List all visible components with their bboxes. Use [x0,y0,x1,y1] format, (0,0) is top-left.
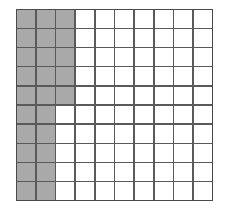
grid-cell-r7-c1 [17,125,35,143]
grid-cell-r3-c4 [76,48,94,66]
grid-cell-r1-c4 [76,10,94,28]
grid-cell-r10-c6 [115,182,133,200]
grid-cell-r2-c10 [194,29,212,47]
grid-cell-r4-c10 [194,67,212,85]
grid-cell-r3-c3 [56,48,74,66]
grid-cell-r2-c7 [135,29,153,47]
grid-cell-r10-c8 [155,182,173,200]
grid-cell-r5-c8 [155,87,173,105]
grid-cell-r2-c5 [96,29,114,47]
grid-cell-r3-c10 [194,48,212,66]
grid-cell-r5-c10 [194,87,212,105]
grid-cell-r1-c6 [115,10,133,28]
grid-cell-r8-c4 [76,144,94,162]
grid-cell-r1-c9 [174,10,192,28]
grid-cell-r9-c8 [155,163,173,181]
grid-cell-r5-c7 [135,87,153,105]
grid-cell-r2-c2 [37,29,55,47]
grid-cell-r4-c4 [76,67,94,85]
grid-cell-r8-c5 [96,144,114,162]
grid-cell-r8-c1 [17,144,35,162]
grid-cell-r7-c7 [135,125,153,143]
grid-cell-r8-c10 [194,144,212,162]
grid-cell-r6-c8 [155,106,173,124]
grid-cell-r4-c2 [37,67,55,85]
grid-cell-r1-c3 [56,10,74,28]
grid-cell-r9-c10 [194,163,212,181]
figure-root [0,0,226,210]
grid-cell-r5-c5 [96,87,114,105]
grid-cell-r3-c5 [96,48,114,66]
grid-cell-r4-c6 [115,67,133,85]
grid-cell-r9-c3 [56,163,74,181]
grid-cell-r10-c1 [17,182,35,200]
grid-cell-r7-c4 [76,125,94,143]
grid-cell-r1-c2 [37,10,55,28]
grid-cell-r1-c10 [194,10,212,28]
grid-cell-r9-c9 [174,163,192,181]
grid-cell-r2-c4 [76,29,94,47]
grid-cell-r9-c5 [96,163,114,181]
grid-cell-r7-c3 [56,125,74,143]
grid-cell-r10-c4 [76,182,94,200]
grid-cell-r9-c1 [17,163,35,181]
grid-cell-r5-c2 [37,87,55,105]
grid-cell-r3-c6 [115,48,133,66]
grid-cell-r5-c1 [17,87,35,105]
grid-cell-r6-c4 [76,106,94,124]
grid-cell-r8-c2 [37,144,55,162]
grid-cell-r5-c4 [76,87,94,105]
grid-cell-r8-c9 [174,144,192,162]
grid-cell-r7-c2 [37,125,55,143]
grid-cell-r5-c3 [56,87,74,105]
grid-cell-r8-c6 [115,144,133,162]
grid-cell-r9-c4 [76,163,94,181]
grid-cell-r1-c1 [17,10,35,28]
grid-cell-r7-c10 [194,125,212,143]
grid-cell-r4-c7 [135,67,153,85]
grid-cell-r10-c5 [96,182,114,200]
grid-cell-r9-c6 [115,163,133,181]
grid-cell-r10-c3 [56,182,74,200]
grid-cell-r6-c7 [135,106,153,124]
grid-cell-r7-c9 [174,125,192,143]
grid-cell-r5-c9 [174,87,192,105]
grid-cell-r4-c3 [56,67,74,85]
grid-cell-r9-c2 [37,163,55,181]
grid-cell-r3-c8 [155,48,173,66]
grid-cell-r1-c5 [96,10,114,28]
grid-cell-r7-c8 [155,125,173,143]
grid-cell-r10-c9 [174,182,192,200]
grid-cell-r2-c6 [115,29,133,47]
grid-cell-r2-c3 [56,29,74,47]
grid-cell-r6-c6 [115,106,133,124]
grid-cell-r8-c8 [155,144,173,162]
grid-cell-r3-c9 [174,48,192,66]
grid-cell-r1-c7 [135,10,153,28]
grid-cell-r4-c1 [17,67,35,85]
grid-cell-r6-c2 [37,106,55,124]
grid-cell-r6-c9 [174,106,192,124]
grid-cell-r2-c8 [155,29,173,47]
grid-cell-r1-c8 [155,10,173,28]
grid-cell-r6-c10 [194,106,212,124]
grid-cell-r7-c5 [96,125,114,143]
grid-cell-r8-c3 [56,144,74,162]
grid-cell-r3-c2 [37,48,55,66]
grid-cell-r6-c3 [56,106,74,124]
grid-cell-r5-c6 [115,87,133,105]
grid-cell-r4-c9 [174,67,192,85]
grid-cell-r3-c7 [135,48,153,66]
grid-cell-r6-c1 [17,106,35,124]
grid-cell-r9-c7 [135,163,153,181]
grid-cell-r3-c1 [17,48,35,66]
grid-cell-r7-c6 [115,125,133,143]
grid-cell-r2-c1 [17,29,35,47]
grid-cell-r8-c7 [135,144,153,162]
grid-cell-r4-c8 [155,67,173,85]
grid-cell-r10-c10 [194,182,212,200]
grid-cell-r10-c7 [135,182,153,200]
grid-cell-r2-c9 [174,29,192,47]
grid-cell-r10-c2 [37,182,55,200]
shaded-grid [16,9,213,201]
